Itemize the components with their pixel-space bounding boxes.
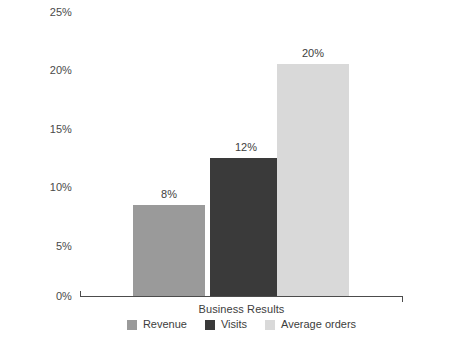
bar-average-orders[interactable]: 20% (277, 64, 349, 297)
legend-item-visits[interactable]: Visits (205, 319, 247, 330)
bar-value-label-average-orders: 20% (302, 48, 324, 59)
bar-visits[interactable]: 12% (210, 158, 282, 297)
legend-swatch-visits-icon (205, 320, 215, 330)
x-axis-cap-right (402, 296, 403, 302)
y-tick-label-25: 25% (50, 7, 72, 18)
legend-swatch-revenue-icon (127, 320, 137, 330)
y-axis: 25% 20% 15% 10% 5% 0% (0, 0, 78, 358)
legend-item-average-orders[interactable]: Average orders (265, 319, 356, 330)
y-tick-label-5: 5% (56, 241, 72, 252)
bar-chart: 25% 20% 15% 10% 5% 0% 8% 12% 20% Busines… (0, 0, 462, 358)
chart-legend: Revenue Visits Average orders (80, 319, 403, 330)
y-tick-label-15: 15% (50, 124, 72, 135)
y-tick-label-20: 20% (50, 65, 72, 76)
x-axis-line (80, 296, 403, 297)
y-tick-label-10: 10% (50, 182, 72, 193)
x-axis-cap-left (80, 291, 81, 297)
y-tick-label-0: 0% (56, 291, 72, 302)
bar-value-label-visits: 12% (235, 142, 257, 153)
plot-area: 8% 12% 20% (80, 2, 403, 297)
bar-revenue[interactable]: 8% (133, 205, 205, 297)
legend-label-average-orders: Average orders (281, 319, 356, 330)
legend-swatch-average-orders-icon (265, 320, 275, 330)
legend-item-revenue[interactable]: Revenue (127, 319, 187, 330)
legend-label-visits: Visits (221, 319, 247, 330)
x-axis-title: Business Results (80, 303, 403, 316)
legend-label-revenue: Revenue (143, 319, 187, 330)
bar-value-label-revenue: 8% (161, 189, 177, 200)
